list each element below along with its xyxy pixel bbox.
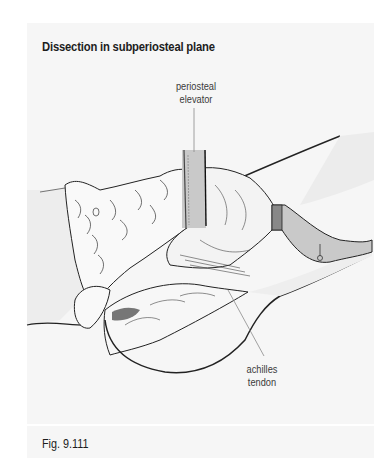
label-achilles-tendon: achilles tendon bbox=[239, 363, 285, 389]
achilles-leader-line bbox=[228, 290, 264, 356]
surgical-illustration bbox=[0, 0, 389, 476]
figure-caption: Fig. 9.111 bbox=[42, 437, 88, 451]
label-line: elevator bbox=[171, 93, 220, 106]
label-line: periosteal bbox=[171, 80, 220, 93]
label-line: tendon bbox=[239, 376, 285, 389]
retractor-instrument-icon bbox=[272, 205, 372, 262]
label-periosteal-elevator: periosteal elevator bbox=[171, 80, 220, 106]
label-line: achilles bbox=[239, 363, 285, 376]
